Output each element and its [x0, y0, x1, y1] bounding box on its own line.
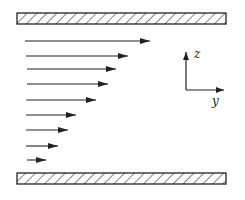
- y-axis-label: y: [212, 95, 219, 107]
- velocity-profile-diagram: [0, 0, 245, 200]
- coordinate-axes: [186, 52, 224, 90]
- plates: [17, 13, 226, 184]
- bottom-plate: [17, 173, 226, 184]
- top-plate: [17, 13, 226, 24]
- z-axis-label: z: [194, 48, 200, 60]
- velocity-arrows: [25, 41, 150, 160]
